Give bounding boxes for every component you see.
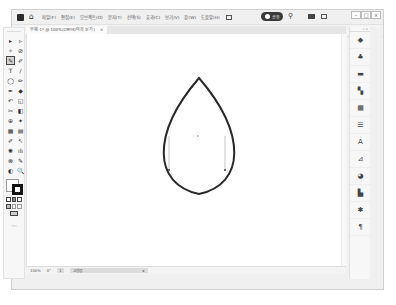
avatar <box>265 14 270 19</box>
handle-point <box>168 169 170 171</box>
document-tab-close[interactable]: × <box>100 26 103 34</box>
stroke-panel-icon[interactable]: ☰ <box>350 117 371 134</box>
ellipse-tool-icon[interactable]: ◯ <box>6 76 15 85</box>
none-icon[interactable] <box>17 197 22 202</box>
more-tools-button[interactable]: ··· <box>4 222 24 229</box>
stroke-swatch[interactable] <box>12 184 23 195</box>
menu-effect[interactable]: 효과(C) <box>146 14 160 20</box>
document-tab[interactable]: 무제-1* @ 100%(CMYK/미리 보기) × <box>26 26 107 34</box>
align-panel-icon[interactable]: ▙ <box>350 185 371 202</box>
draw-mode-row <box>6 204 22 209</box>
right-panel-dock: » × ◆ ♣ ▬ ▚ ▦ ☰ A ⊿ ◕ ▙ ✱ ¶ <box>349 27 370 279</box>
pencil-tool-icon[interactable]: ✏ <box>16 76 25 85</box>
menu-edit[interactable]: 편집(E) <box>61 14 75 20</box>
maximize-button[interactable]: □ <box>361 11 371 19</box>
menu-file[interactable]: 파일(F) <box>42 14 56 20</box>
draw-behind-icon[interactable] <box>12 204 17 209</box>
title-bar: ⌂ 파일(F) 편집(E) 오브젝트(O) 문자(T) 선택(S) 효과(C) … <box>12 10 383 24</box>
hand-tool-icon[interactable]: ◐ <box>6 166 15 175</box>
zoom-level[interactable]: 100% <box>30 268 41 273</box>
menu-type[interactable]: 문자(T) <box>108 14 122 20</box>
screen-mode-row <box>6 211 22 216</box>
blend-tool-icon[interactable]: ↖ <box>16 136 25 145</box>
zoom-tool-icon[interactable]: 🔍 <box>16 166 25 175</box>
tool-status-arrow: ▸ <box>143 268 145 273</box>
app-logo-icon <box>17 14 24 21</box>
arrange-icon[interactable] <box>308 14 315 19</box>
eyedropper-tool-icon[interactable]: ✐ <box>6 136 15 145</box>
lasso-tool-icon[interactable]: ⊘ <box>16 46 25 55</box>
tool-status-label: 고정점 <box>73 268 82 273</box>
rotation-angle[interactable]: 0° <box>47 268 51 273</box>
home-icon[interactable]: ⌂ <box>29 13 34 21</box>
center-point <box>197 135 199 137</box>
share-button[interactable]: 공유 <box>261 12 283 21</box>
magic-wand-tool-icon[interactable]: ✧ <box>6 46 15 55</box>
live-paint-tool-icon[interactable]: ✦ <box>16 116 25 125</box>
handle-point <box>224 169 226 171</box>
scale-tool-icon[interactable]: ◱ <box>16 96 25 105</box>
gradient-icon[interactable] <box>12 197 17 202</box>
rotate-tool-icon[interactable]: ↶ <box>6 96 15 105</box>
screen-mode-icon[interactable] <box>10 211 18 216</box>
draw-inside-icon[interactable] <box>17 204 22 209</box>
document-tab-row: 무제-1* @ 100%(CMYK/미리 보기) × <box>26 26 346 34</box>
search-icon[interactable]: ⚲ <box>288 12 293 20</box>
tool-status[interactable]: 고정점 ▸ <box>70 268 148 273</box>
status-bar: 100% 0° 1 고정점 ▸ <box>26 266 346 274</box>
lens-shape-path <box>164 78 235 194</box>
vertical-scrollbar[interactable] <box>341 34 347 266</box>
artboard-tool-icon[interactable]: ⊗ <box>6 156 15 165</box>
minimize-button[interactable]: – <box>351 11 361 19</box>
menu-object[interactable]: 오브젝트(O) <box>80 14 103 20</box>
appearance-panel-icon[interactable]: ◕ <box>350 168 371 185</box>
document-tab-title: 무제-1* @ 100%(CMYK/미리 보기) <box>30 26 95 34</box>
menu-select[interactable]: 선택(S) <box>127 14 141 20</box>
menu-bar: 파일(F) 편집(E) 오브젝트(O) 문자(T) 선택(S) 효과(C) 보기… <box>42 14 220 20</box>
scissors-tool-icon[interactable]: ✂ <box>6 106 15 115</box>
fill-stroke-swatches <box>6 179 24 195</box>
column-graph-tool-icon[interactable]: ılı <box>16 146 25 155</box>
color-icon[interactable] <box>6 197 11 202</box>
brushes-panel-icon[interactable]: ▬ <box>350 66 371 83</box>
canvas[interactable] <box>26 34 347 266</box>
symbol-sprayer-tool-icon[interactable]: ✺ <box>6 146 15 155</box>
character-panel-icon[interactable]: A <box>350 134 371 151</box>
direct-selection-tool-icon[interactable]: ▹ <box>16 36 25 45</box>
paragraph-panel-icon[interactable]: ¶ <box>350 219 371 236</box>
color-panel-icon[interactable]: ◆ <box>350 32 371 49</box>
shape-builder-tool-icon[interactable]: ⊕ <box>6 116 15 125</box>
color-mode-row <box>6 197 22 202</box>
type-tool-icon[interactable]: T <box>6 66 15 75</box>
artwork-path[interactable] <box>27 34 347 266</box>
share-label: 공유 <box>272 14 280 20</box>
tool-grid: ▸ ▹ ✧ ⊘ ✎ ✐ T / ◯ ✏ ✒ ◆ ↶ ◱ ✂ ◧ ⊕ ✦ ▦ ▤ … <box>4 32 24 175</box>
menu-view[interactable]: 보기(V) <box>165 14 179 20</box>
curvature-tool-icon[interactable]: ✐ <box>16 56 25 65</box>
selection-tool-icon[interactable]: ▸ <box>6 36 15 45</box>
pen-tool-icon[interactable]: ✎ <box>6 56 15 65</box>
draw-normal-icon[interactable] <box>6 204 11 209</box>
line-tool-icon[interactable]: / <box>16 66 25 75</box>
panel-toggle-icon[interactable] <box>321 14 327 19</box>
pathfinder-panel-icon[interactable]: ✱ <box>350 202 371 219</box>
blob-brush-tool-icon[interactable]: ◆ <box>16 86 25 95</box>
perspective-grid-tool-icon[interactable]: ▦ <box>6 126 15 135</box>
symbols-panel-icon[interactable]: ▚ <box>350 83 371 100</box>
gradient-panel-icon[interactable]: ▦ <box>350 100 371 117</box>
free-transform-tool-icon[interactable]: ◧ <box>16 106 25 115</box>
menu-window[interactable]: 창(W) <box>184 14 196 20</box>
window-edge <box>370 27 382 279</box>
window-controls: – □ × <box>351 11 381 19</box>
toolbox: ▸ ▹ ✧ ⊘ ✎ ✐ T / ◯ ✏ ✒ ◆ ↶ ◱ ✂ ◧ ⊕ ✦ ▦ ▤ … <box>3 27 25 279</box>
menu-help[interactable]: 도움말(H) <box>201 14 220 20</box>
artboard-number[interactable]: 1 <box>57 268 63 273</box>
paintbrush-tool-icon[interactable]: ✒ <box>6 86 15 95</box>
transparency-panel-icon[interactable]: ⊿ <box>350 151 371 168</box>
swatches-panel-icon[interactable]: ♣ <box>350 49 371 66</box>
slice-tool-icon[interactable]: ✎ <box>16 156 25 165</box>
workspace-icon[interactable] <box>226 15 232 20</box>
gradient-tool-icon[interactable]: ▤ <box>16 126 25 135</box>
close-button[interactable]: × <box>371 11 381 19</box>
